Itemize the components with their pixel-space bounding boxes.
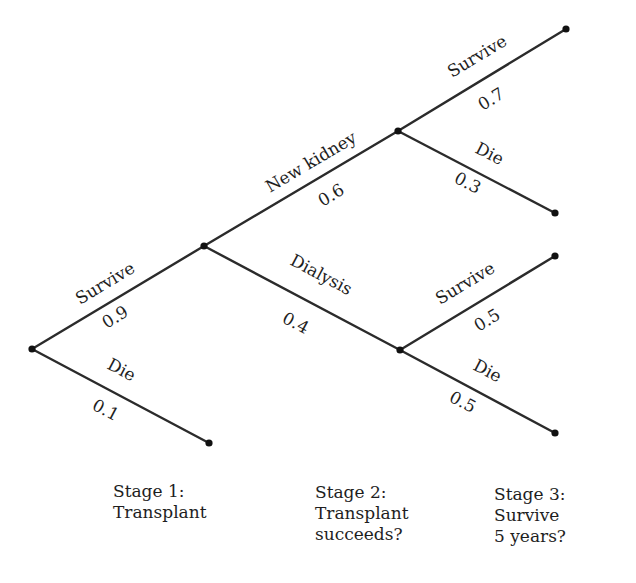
label-stage3-nk-die: Die: [472, 138, 507, 169]
node-stage1-survive: [200, 242, 207, 249]
stage-3-desc-line2: 5 years?: [494, 526, 566, 547]
node-stage3-dia-die: [551, 429, 558, 436]
prob-stage1-die: 0.1: [89, 395, 122, 425]
node-stage3-nk-survive: [562, 25, 569, 32]
node-stage1-die: [205, 439, 212, 446]
stage-2-desc-line2: succeeds?: [315, 524, 409, 545]
stage-2-caption: Stage 2: Transplant succeeds?: [315, 482, 409, 545]
label-stage3-nk-survive: Survive: [444, 31, 510, 82]
prob-stage3-dia-survive: 0.5: [470, 304, 503, 335]
label-stage1-die: Die: [104, 354, 139, 385]
prob-stage3-nk-die: 0.3: [451, 168, 484, 198]
branch-stage2-new-kidney: [204, 131, 398, 246]
node-root: [28, 345, 35, 352]
stage-1-title: Stage 1:: [113, 481, 207, 502]
stage-2-title: Stage 2:: [315, 482, 409, 503]
label-stage2-dialysis: Dialysis: [287, 250, 356, 299]
prob-stage2-dialysis: 0.4: [279, 308, 312, 338]
branch-stage1-survive: [32, 246, 204, 349]
label-stage3-dia-die: Die: [470, 355, 505, 386]
stage-1-desc: Transplant: [113, 502, 207, 523]
prob-stage2-new-kidney: 0.6: [314, 179, 347, 210]
stage-1-caption: Stage 1: Transplant: [113, 481, 207, 523]
stage-3-title: Stage 3:: [494, 484, 566, 505]
label-stage1-survive: Survive: [72, 258, 138, 309]
node-stage2-dialysis: [396, 346, 403, 353]
stage-2-desc-line1: Transplant: [315, 503, 409, 524]
prob-stage3-nk-survive: 0.7: [474, 83, 507, 114]
stage-3-desc-line1: Survive: [494, 505, 566, 526]
node-stage3-nk-die: [551, 209, 558, 216]
stage-3-caption: Stage 3: Survive 5 years?: [494, 484, 566, 547]
node-stage3-dia-survive: [551, 252, 558, 259]
label-stage3-dia-survive: Survive: [432, 258, 498, 309]
branch-stage3-nk-die: [398, 131, 555, 213]
node-stage2-new-kidney: [394, 127, 401, 134]
